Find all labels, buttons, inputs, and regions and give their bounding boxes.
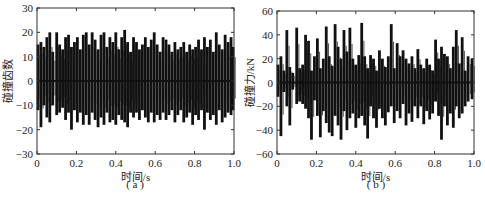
y-tick-label: 60 <box>262 5 274 17</box>
chart-panel-b: 00.20.40.60.81.06040200−20−40−60时间/s碰撞力/… <box>242 0 485 204</box>
x-tick-label: 1.0 <box>227 157 241 169</box>
chart-panel-a: 00.20.40.60.81.03020100−10−20−30时间/s碰撞齿数… <box>0 0 242 204</box>
y-tick-label: −30 <box>16 148 34 160</box>
y-tick-label: −40 <box>256 124 274 136</box>
y-tick-label: −20 <box>256 100 274 112</box>
x-tick-label: 0.2 <box>310 157 324 169</box>
y-tick-label: 10 <box>22 51 34 63</box>
x-tick-label: 0.6 <box>148 157 162 169</box>
y-tick-label: 0 <box>268 77 274 89</box>
x-tick-label: 0 <box>34 157 40 169</box>
y-axis-label: 碰撞力/kN <box>243 58 256 108</box>
y-axis-label: 碰撞齿数 <box>1 59 14 103</box>
x-tick-label: 0.8 <box>428 157 442 169</box>
data-series <box>277 23 475 140</box>
y-tick-label: 0 <box>28 75 34 87</box>
x-tick-label: 0.2 <box>70 157 84 169</box>
x-tick-label: 0.6 <box>388 157 402 169</box>
y-tick-label: 30 <box>22 2 34 14</box>
panel-caption-b: ( b ) <box>346 178 406 190</box>
x-tick-label: 0.8 <box>188 157 202 169</box>
collision-teeth-chart: 00.20.40.60.81.03020100−10−20−30时间/s碰撞齿数 <box>0 0 242 204</box>
x-tick-label: 1.0 <box>467 157 481 169</box>
panel-caption-a: ( a ) <box>105 178 165 190</box>
y-tick-label: 20 <box>262 53 274 65</box>
x-tick-label: 0.4 <box>349 157 363 169</box>
y-tick-label: −10 <box>16 99 34 111</box>
x-tick-label: 0 <box>274 157 280 169</box>
y-tick-label: −20 <box>16 124 34 136</box>
collision-force-chart: 00.20.40.60.81.06040200−20−40−60时间/s碰撞力/… <box>242 0 485 204</box>
x-tick-label: 0.4 <box>109 157 123 169</box>
data-series <box>37 30 236 130</box>
y-tick-label: −60 <box>256 148 274 160</box>
y-tick-label: 20 <box>22 26 34 38</box>
y-tick-label: 40 <box>262 29 274 41</box>
